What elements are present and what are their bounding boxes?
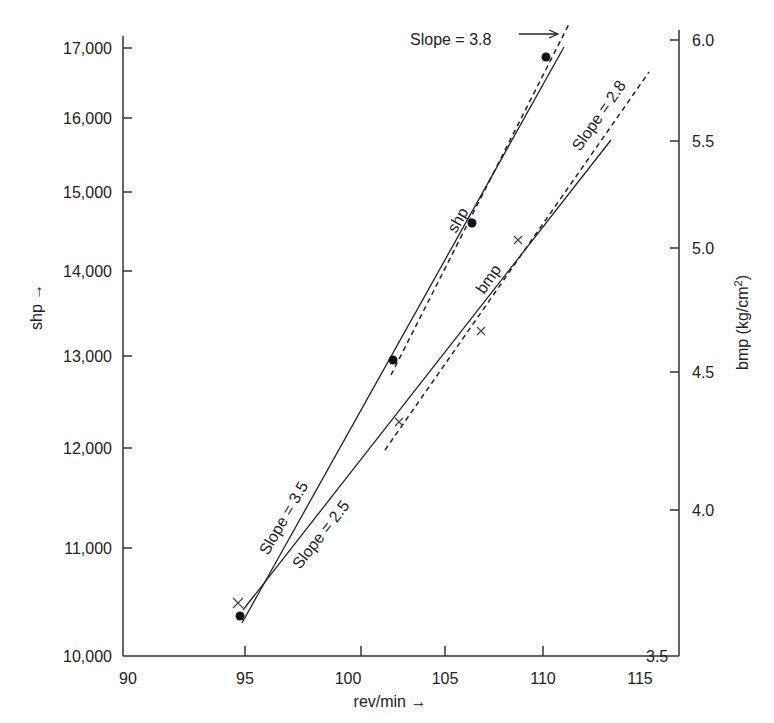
- svg-text:4.5: 4.5: [692, 364, 714, 381]
- bmp-line-label: bmp: [473, 261, 505, 296]
- svg-text:16,000: 16,000: [63, 110, 112, 127]
- svg-text:110: 110: [530, 670, 556, 687]
- svg-text:105: 105: [432, 670, 459, 687]
- svg-text:5.5: 5.5: [692, 133, 714, 150]
- svg-text:5.0: 5.0: [692, 240, 714, 257]
- x-tick-labels: 90 95 100 105 110 115: [119, 670, 653, 687]
- svg-text:90: 90: [119, 670, 137, 687]
- left-axis-label: shp →: [28, 284, 45, 330]
- svg-text:15,000: 15,000: [63, 184, 112, 201]
- svg-text:95: 95: [236, 670, 254, 687]
- shp-solid-fit: [242, 47, 564, 623]
- shp-dashed-fit: [391, 22, 570, 375]
- svg-text:17,000: 17,000: [63, 40, 112, 57]
- shp-line-label: shp: [444, 205, 472, 236]
- svg-text:115: 115: [627, 670, 653, 687]
- slope-28-label: Slope = 2.8: [569, 77, 630, 154]
- svg-text:12,000: 12,000: [63, 440, 112, 457]
- bmp-solid-fit: [243, 140, 611, 610]
- slope-38-label: Slope = 3.8: [410, 31, 492, 48]
- svg-text:13,000: 13,000: [63, 348, 112, 365]
- svg-text:3.5: 3.5: [646, 648, 668, 665]
- left-ticks: [123, 48, 132, 548]
- x-axis-label: rev/min →: [354, 693, 427, 710]
- svg-text:4.0: 4.0: [692, 502, 714, 519]
- svg-text:11,000: 11,000: [64, 540, 112, 557]
- svg-text:14,000: 14,000: [63, 263, 112, 280]
- svg-text:100: 100: [335, 670, 362, 687]
- x-ticks: [245, 646, 543, 656]
- svg-text:6.0: 6.0: [692, 32, 714, 49]
- right-tick-labels: 6.0 5.5 5.0 4.5 4.0 3.5: [646, 32, 714, 665]
- right-axis-label: bmp (kg/cm2): [732, 275, 751, 370]
- left-tick-labels: 10,000 11,000 12,000 13,000 14,000 15,00…: [63, 40, 112, 665]
- right-ticks: [670, 40, 679, 510]
- svg-text:10,000: 10,000: [63, 648, 112, 665]
- chart: 10,000 11,000 12,000 13,000 14,000 15,00…: [0, 0, 774, 723]
